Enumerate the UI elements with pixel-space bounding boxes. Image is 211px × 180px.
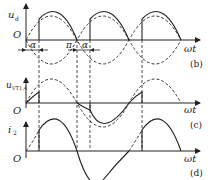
- panel-b: u d O α π α ωt (b): [8, 4, 203, 69]
- svg-text:ωt: ωt: [184, 153, 197, 164]
- svg-text:2: 2: [13, 129, 17, 136]
- ud-seg-2: [90, 12, 129, 40]
- svg-text:(d): (d): [190, 168, 203, 178]
- panel-d: i 2 O ωt (d): [8, 119, 203, 180]
- svg-text:ωt: ωt: [184, 104, 197, 115]
- x-label: ωt: [184, 43, 197, 54]
- y-label: u: [8, 9, 14, 20]
- waveform-diagram: u d O α π α ωt (b) u VT1,4 O ωt (c) i: [0, 0, 211, 180]
- svg-text:d: d: [15, 15, 19, 22]
- guide-lines: [39, 40, 142, 150]
- svg-text:(c): (c): [190, 120, 202, 130]
- svg-text:O: O: [13, 105, 21, 116]
- svg-text:α: α: [82, 40, 88, 50]
- origin-label: O: [13, 29, 21, 40]
- panel-tag: (b): [190, 59, 203, 69]
- svg-text:O: O: [13, 153, 21, 164]
- panel-c: u VT1,4 O ωt (c): [6, 78, 202, 130]
- svg-text:i: i: [8, 124, 11, 135]
- svg-text:π: π: [65, 40, 73, 50]
- ud-seg-1: [39, 12, 77, 40]
- svg-text:α: α: [30, 40, 36, 50]
- svg-text:VT1,4: VT1,4: [11, 85, 27, 91]
- ud-seg-3: [142, 12, 181, 40]
